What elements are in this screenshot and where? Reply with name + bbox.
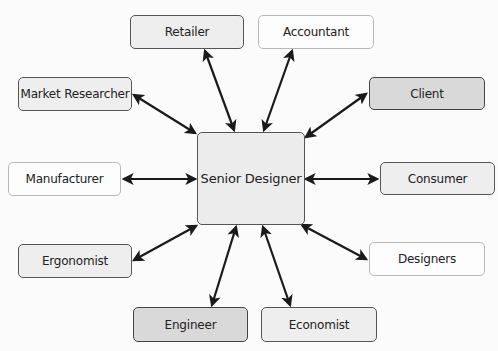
node-manufacturer: Manufacturer: [8, 162, 121, 196]
arrow-accountant: [264, 51, 292, 130]
node-label: Retailer: [165, 25, 210, 39]
node-label: Accountant: [283, 25, 349, 39]
node-accountant: Accountant: [258, 15, 374, 49]
arrow-client: [306, 94, 366, 137]
node-retailer: Retailer: [130, 15, 244, 49]
node-label: Economist: [289, 318, 350, 332]
node-label: Senior Designer: [201, 171, 302, 186]
node-senior-designer: Senior Designer: [197, 132, 305, 225]
node-market-researcher: Market Researcher: [18, 77, 132, 111]
node-client: Client: [369, 77, 485, 110]
node-label: Manufacturer: [26, 172, 104, 186]
arrow-retailer: [205, 51, 234, 130]
stakeholder-diagram: Senior Designer Retailer Accountant Mark…: [0, 0, 498, 351]
arrow-engineer: [212, 227, 236, 305]
node-economist: Economist: [261, 307, 377, 342]
node-label: Client: [410, 87, 444, 101]
node-label: Engineer: [165, 318, 217, 332]
node-label: Ergonomist: [42, 254, 108, 268]
arrow-ergonomist: [134, 226, 196, 260]
node-engineer: Engineer: [133, 307, 248, 342]
node-consumer: Consumer: [380, 162, 495, 195]
arrow-economist: [263, 227, 290, 305]
arrow-designers: [302, 225, 366, 259]
node-label: Market Researcher: [20, 87, 129, 101]
node-designers: Designers: [369, 242, 485, 276]
arrow-market-researcher: [134, 95, 195, 133]
node-label: Consumer: [408, 172, 468, 186]
node-ergonomist: Ergonomist: [18, 244, 132, 278]
node-label: Designers: [398, 252, 456, 266]
